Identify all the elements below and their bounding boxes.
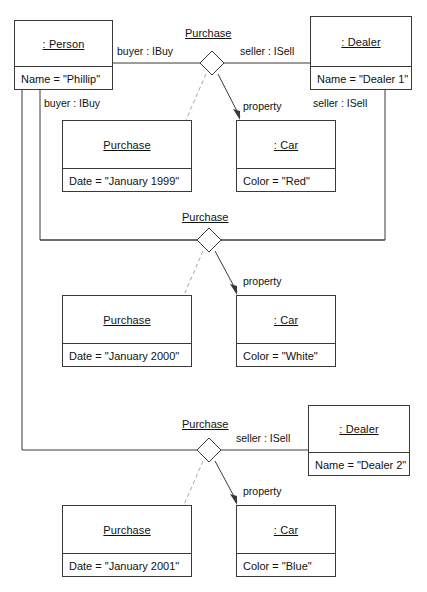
- object-attrs-dealer2: Name = "Dealer 2": [309, 452, 409, 476]
- object-name-purchase1: Purchase: [103, 139, 150, 151]
- object-attr-dealer2-name: Name = "Dealer 2": [309, 459, 406, 471]
- object-header-car1: : Car: [237, 121, 335, 168]
- role-label-seller-inner: seller : ISell: [313, 97, 367, 109]
- object-header-purchase3: Purchase: [63, 506, 191, 553]
- diagram-canvas: : Person Name = "Phillip" : Dealer Name …: [0, 0, 427, 592]
- object-name-purchase2: Purchase: [103, 314, 150, 326]
- association-label-3: Purchase: [182, 418, 228, 430]
- object-attrs-person: Name = "Phillip": [15, 66, 112, 90]
- object-attr-car3-color: Color = "Blue": [237, 560, 312, 572]
- object-attrs-purchase1: Date = "January 1999": [63, 168, 191, 192]
- object-header-purchase1: Purchase: [63, 121, 191, 168]
- object-name-car3: : Car: [274, 524, 298, 536]
- object-box-person[interactable]: : Person Name = "Phillip": [14, 20, 113, 90]
- object-header-car3: : Car: [237, 506, 335, 553]
- object-attrs-car3: Color = "Blue": [237, 553, 335, 577]
- object-name-car2: : Car: [274, 314, 298, 326]
- object-attrs-dealer1: Name = "Dealer 1": [311, 66, 411, 90]
- object-attr-car1-color: Color = "Red": [237, 175, 310, 187]
- role-label-seller-bottom: seller : ISell: [236, 432, 290, 444]
- assoc2-arrowhead: [230, 284, 237, 295]
- object-header-dealer1: : Dealer: [311, 17, 411, 66]
- object-box-dealer1[interactable]: : Dealer Name = "Dealer 1": [310, 16, 412, 90]
- role-label-property-3: property: [243, 485, 282, 497]
- assoc1-diamond: [200, 51, 224, 75]
- object-attr-purchase1-date: Date = "January 1999": [63, 175, 179, 187]
- object-attrs-car1: Color = "Red": [237, 168, 335, 192]
- object-header-purchase2: Purchase: [63, 296, 191, 343]
- object-box-purchase1[interactable]: Purchase Date = "January 1999": [62, 120, 192, 192]
- object-attr-purchase3-date: Date = "January 2001": [63, 560, 179, 572]
- object-box-car3[interactable]: : Car Color = "Blue": [236, 505, 336, 577]
- object-box-car1[interactable]: : Car Color = "Red": [236, 120, 336, 192]
- assoc3-arrowhead: [230, 494, 237, 505]
- object-name-car1: : Car: [274, 139, 298, 151]
- role-label-buyer-inner: buyer : IBuy: [44, 97, 100, 109]
- object-header-person: : Person: [15, 21, 112, 66]
- object-name-purchase3: Purchase: [103, 524, 150, 536]
- object-name-person: : Person: [43, 38, 85, 50]
- assoc2-diamond: [197, 228, 221, 252]
- object-box-dealer2[interactable]: : Dealer Name = "Dealer 2": [308, 405, 410, 476]
- object-box-purchase2[interactable]: Purchase Date = "January 2000": [62, 295, 192, 367]
- object-attrs-purchase2: Date = "January 2000": [63, 343, 191, 367]
- role-label-buyer-top: buyer : IBuy: [117, 45, 173, 57]
- object-attrs-car2: Color = "White": [237, 343, 335, 367]
- object-header-dealer2: : Dealer: [309, 406, 409, 452]
- object-name-dealer1: : Dealer: [341, 36, 380, 48]
- object-attrs-purchase3: Date = "January 2001": [63, 553, 191, 577]
- object-attr-car2-color: Color = "White": [237, 350, 318, 362]
- assoc1-dashed-to-purchase: [186, 74, 206, 120]
- object-attr-purchase2-date: Date = "January 2000": [63, 350, 179, 362]
- object-box-purchase3[interactable]: Purchase Date = "January 2001": [62, 505, 192, 577]
- object-header-car2: : Car: [237, 296, 335, 343]
- assoc3-dashed-to-purchase: [184, 461, 203, 505]
- object-attr-person-name: Name = "Phillip": [15, 73, 100, 85]
- assoc3-diamond: [197, 438, 221, 462]
- object-box-car2[interactable]: : Car Color = "White": [236, 295, 336, 367]
- assoc1-arrowhead: [233, 109, 240, 120]
- role-label-property-1: property: [243, 100, 282, 112]
- assoc2-dashed-to-purchase: [184, 251, 203, 295]
- role-label-seller-top: seller : ISell: [240, 45, 294, 57]
- object-attr-dealer1-name: Name = "Dealer 1": [311, 73, 408, 85]
- association-label-2: Purchase: [182, 211, 228, 223]
- association-label-1: Purchase: [185, 27, 231, 39]
- object-name-dealer2: : Dealer: [339, 423, 378, 435]
- role-label-property-2: property: [243, 275, 282, 287]
